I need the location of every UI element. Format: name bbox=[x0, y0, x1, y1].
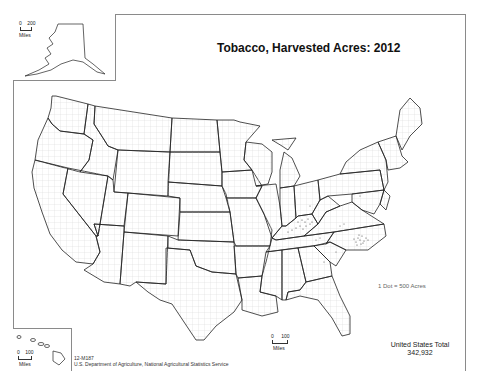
main-scale-bar bbox=[272, 340, 288, 344]
us-total-label: United States Total bbox=[380, 341, 460, 349]
main-scale-max: 100 bbox=[281, 333, 289, 339]
alaska-scale-min: 0 bbox=[19, 20, 22, 26]
alaska-scale-max: 200 bbox=[27, 20, 35, 26]
hawaii-inset: 0 100 Miles bbox=[13, 328, 72, 371]
source-credit: 12-M187 U.S. Department of Agriculture, … bbox=[74, 355, 229, 367]
main-scale-min: 0 bbox=[271, 333, 274, 339]
alaska-inset: 0 200 Miles bbox=[13, 14, 116, 81]
hawaii-scale-max: 100 bbox=[25, 349, 33, 355]
alaska-scale-unit: Miles bbox=[19, 32, 31, 38]
alaska-scale: 0 200 Miles bbox=[19, 20, 36, 26]
map-title: Tobacco, Harvested Acres: 2012 bbox=[217, 41, 400, 55]
agency-name: U.S. Department of Agriculture, National… bbox=[74, 361, 229, 367]
us-total: United States Total 342,932 bbox=[380, 341, 460, 357]
hawaii-scale-bar bbox=[18, 356, 32, 360]
main-scale: 0 100 Miles bbox=[271, 333, 290, 339]
us-total-value: 342,932 bbox=[380, 349, 460, 357]
lower-48-states bbox=[32, 96, 422, 340]
main-scale-unit: Miles bbox=[273, 345, 285, 351]
hawaii-scale: 0 100 Miles bbox=[17, 349, 34, 355]
hawaii-scale-min: 0 bbox=[17, 349, 20, 355]
alaska-scale-bar bbox=[20, 27, 32, 31]
hawaii-scale-unit: Miles bbox=[19, 361, 31, 367]
dot-legend: 1 Dot = 500 Acres bbox=[378, 283, 426, 289]
